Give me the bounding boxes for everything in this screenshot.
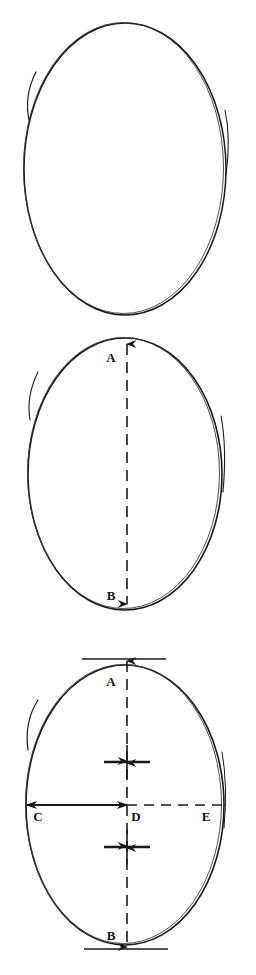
- paper-background: [0, 0, 256, 975]
- oval-measurement-figure: A B: [0, 0, 256, 975]
- label-c: C: [33, 809, 42, 824]
- label-a: A: [106, 350, 116, 365]
- label-b: B: [107, 928, 116, 943]
- figure-root: A B: [0, 0, 256, 975]
- label-d: D: [131, 809, 140, 824]
- label-b: B: [107, 588, 116, 603]
- label-a: A: [106, 674, 116, 689]
- label-e: E: [202, 809, 211, 824]
